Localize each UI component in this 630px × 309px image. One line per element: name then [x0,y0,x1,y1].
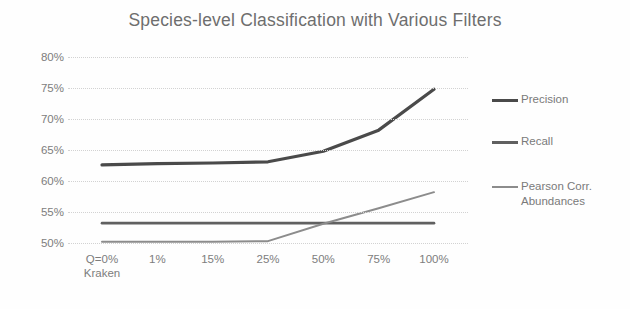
x-tick-sublabel: Kraken [84,266,120,280]
y-tick-label: 60% [24,175,64,187]
legend-swatch-icon [492,186,518,188]
legend-item[interactable]: Recall [492,134,553,149]
gridline [68,212,468,214]
y-tick-label: 70% [24,113,64,125]
gridline [68,119,468,121]
y-tick-label: 80% [24,51,64,63]
legend-item-label: Pearson Corr. Abundances [521,179,592,209]
x-axis: Q=0%Kraken1%15%25%50%75%100% [68,252,468,292]
x-tick-text: 25% [256,253,279,265]
x-tick-label: Q=0%Kraken [84,252,120,280]
gridline [68,88,468,90]
y-tick-label: 55% [24,206,64,218]
x-tick-label: 1% [149,252,166,266]
gridline [68,181,468,183]
y-tick-label: 65% [24,144,64,156]
x-tick-text: Q=0% [86,253,118,265]
y-tick-label: 50% [24,237,64,249]
x-tick-text: 50% [312,253,335,265]
y-axis: 50%55%60%65%70%75%80% [22,57,64,243]
x-tick-text: 1% [149,253,166,265]
legend-item[interactable]: Precision [492,92,568,107]
series-line [102,89,434,165]
x-tick-label: 15% [201,252,224,266]
chart-screenshot: Species-level Classification with Variou… [0,0,630,309]
legend-item-label: Precision [521,92,568,107]
x-tick-label: 25% [256,252,279,266]
legend-swatch-icon [492,141,518,144]
x-tick-text: 100% [419,253,448,265]
x-tick-label: 75% [367,252,390,266]
gridline [68,243,468,245]
x-tick-text: 75% [367,253,390,265]
gridline [68,57,468,59]
series-line [102,192,434,242]
x-tick-text: 15% [201,253,224,265]
x-tick-label: 50% [312,252,335,266]
legend-item[interactable]: Pearson Corr. Abundances [492,179,592,209]
page-title: Species-level Classification with Variou… [0,10,630,31]
plot-area [68,57,468,243]
y-tick-label: 75% [24,82,64,94]
x-tick-label: 100% [419,252,448,266]
legend-swatch-icon [492,99,518,102]
legend-item-label: Recall [521,134,553,149]
gridline [68,150,468,152]
